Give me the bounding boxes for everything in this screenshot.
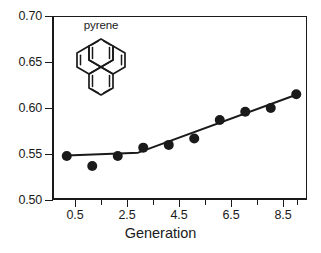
y-axis-tick-label: 0.60: [0, 102, 42, 115]
data-point-markers: [62, 89, 302, 171]
fit-line: [67, 95, 297, 156]
x-axis-tick-label: 4.5: [159, 209, 199, 222]
x-axis-tick: [231, 200, 232, 207]
data-point: [266, 103, 276, 113]
fit-line-path: [67, 95, 297, 156]
data-point: [215, 115, 225, 125]
y-axis-tick-label: 0.50: [0, 194, 42, 207]
data-point: [62, 151, 72, 161]
y-axis-tick-label: 0.55: [0, 148, 42, 161]
x-axis-minor-tick: [205, 200, 206, 205]
x-axis-minor-tick: [101, 200, 102, 205]
x-axis-minor-tick: [153, 200, 154, 205]
data-point: [113, 151, 123, 161]
y-axis-tick: [45, 200, 53, 201]
data-point: [291, 89, 301, 99]
chart-figure: 0.70 0.65 0.60 0.55 0.50 0.5 2.5 4.5 6.5…: [0, 0, 321, 253]
pyrene-label: pyrene: [62, 20, 140, 32]
x-axis-tick-label: 2.5: [107, 209, 147, 222]
data-point: [164, 140, 174, 150]
x-axis-title: Generation: [0, 226, 321, 241]
x-axis-tick-label: 6.5: [211, 209, 251, 222]
x-axis-tick-label: 8.5: [263, 209, 303, 222]
x-axis-tick: [283, 200, 284, 207]
x-axis-minor-tick: [297, 200, 298, 205]
data-point: [87, 161, 97, 171]
pyrene-structure-icon: [70, 35, 132, 101]
x-axis-tick-label: 0.5: [55, 209, 95, 222]
data-point: [240, 107, 250, 117]
x-axis-tick: [127, 200, 128, 207]
data-point: [189, 133, 199, 143]
x-axis-tick: [75, 200, 76, 207]
x-axis-minor-tick: [257, 200, 258, 205]
pyrene-annotation: pyrene: [62, 20, 140, 101]
x-axis-tick: [179, 200, 180, 207]
data-point: [138, 143, 148, 153]
y-axis-tick-label: 0.65: [0, 56, 42, 69]
y-axis-tick-label: 0.70: [0, 10, 42, 23]
